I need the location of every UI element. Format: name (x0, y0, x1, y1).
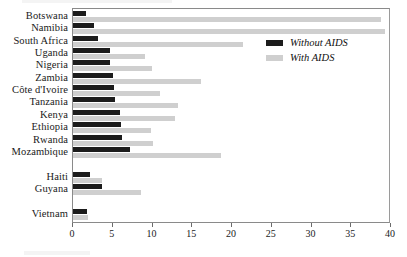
legend-label-with-aids: With AIDS (290, 51, 334, 64)
axis-tick (271, 223, 272, 227)
axis-tick (191, 223, 192, 227)
category-label: Côte d'Ivoire (12, 83, 68, 96)
bar-with-aids (73, 103, 178, 108)
bar-without-aids (73, 147, 130, 152)
category-label: Uganda (35, 46, 68, 59)
axis-tick-label: 30 (306, 228, 316, 239)
bar-with-aids (73, 190, 141, 195)
legend-swatch-without-aids (266, 40, 283, 46)
axis-tick (311, 223, 312, 227)
category-label: Guyana (35, 182, 68, 195)
scan-artifact-bottom (24, 251, 90, 255)
bar-without-aids (73, 36, 98, 41)
chart-legend: Without AIDS With AIDS (266, 37, 386, 67)
bar-with-aids (73, 42, 243, 47)
bar-without-aids (73, 184, 102, 189)
bar-with-aids (73, 79, 201, 84)
bar-with-aids (73, 141, 153, 146)
axis-tick (390, 223, 391, 227)
bar-without-aids (73, 122, 121, 127)
bar-with-aids (73, 153, 221, 158)
bar-with-aids (73, 17, 381, 22)
bar-with-aids (73, 178, 102, 183)
bar-without-aids (73, 60, 110, 65)
axis-tick-label: 0 (70, 228, 75, 239)
bar-row: Guyana (0, 183, 407, 196)
scan-artifact-top (22, 0, 172, 3)
axis-tick (350, 223, 351, 227)
bar-with-aids (73, 215, 88, 220)
category-label: Rwanda (33, 133, 68, 146)
axis-tick-label: 20 (226, 228, 236, 239)
category-label: Kenya (40, 108, 68, 121)
bar-with-aids (73, 91, 160, 96)
bar-without-aids (73, 11, 86, 16)
category-label: Mozambique (12, 145, 68, 158)
x-axis: 0510152025303540 (72, 223, 390, 245)
bar-with-aids (73, 116, 175, 121)
axis-tick (231, 223, 232, 227)
axis-tick-label: 5 (109, 228, 114, 239)
legend-item-with-aids: With AIDS (266, 52, 386, 64)
category-label: Vietnam (32, 207, 68, 220)
legend-label-without-aids: Without AIDS (290, 36, 348, 49)
category-label: Haiti (47, 170, 69, 183)
bar-without-aids (73, 110, 120, 115)
bar-without-aids (73, 73, 113, 78)
axis-tick (112, 223, 113, 227)
bar-without-aids (73, 23, 94, 28)
axis-tick-label: 35 (345, 228, 355, 239)
axis-tick-label: 10 (147, 228, 157, 239)
category-label: Tanzania (29, 95, 68, 108)
category-label: Ethiopia (32, 120, 68, 133)
bar-row: Vietnam (0, 208, 407, 221)
category-label: Namibia (31, 21, 68, 34)
bar-chart: BotswanaNamibiaSouth AfricaUgandaNigeria… (0, 0, 407, 257)
bar-without-aids (73, 209, 87, 214)
axis-tick (152, 223, 153, 227)
bar-row: Mozambique (0, 146, 407, 159)
axis-tick-label: 25 (266, 228, 276, 239)
legend-swatch-with-aids (266, 55, 283, 61)
bar-with-aids (73, 29, 385, 34)
bar-with-aids (73, 54, 145, 59)
bar-without-aids (73, 135, 122, 140)
axis-tick-label: 15 (186, 228, 196, 239)
bar-without-aids (73, 48, 110, 53)
bar-with-aids (73, 66, 152, 71)
axis-tick-label: 40 (385, 228, 395, 239)
category-label: South Africa (13, 34, 68, 47)
category-label: Zambia (35, 71, 68, 84)
category-label: Nigeria (36, 58, 68, 71)
bar-with-aids (73, 128, 151, 133)
axis-tick (72, 223, 73, 227)
category-label: Botswana (26, 9, 68, 22)
bar-without-aids (73, 172, 90, 177)
bar-without-aids (73, 97, 115, 102)
bar-without-aids (73, 85, 114, 90)
legend-item-without-aids: Without AIDS (266, 37, 386, 49)
